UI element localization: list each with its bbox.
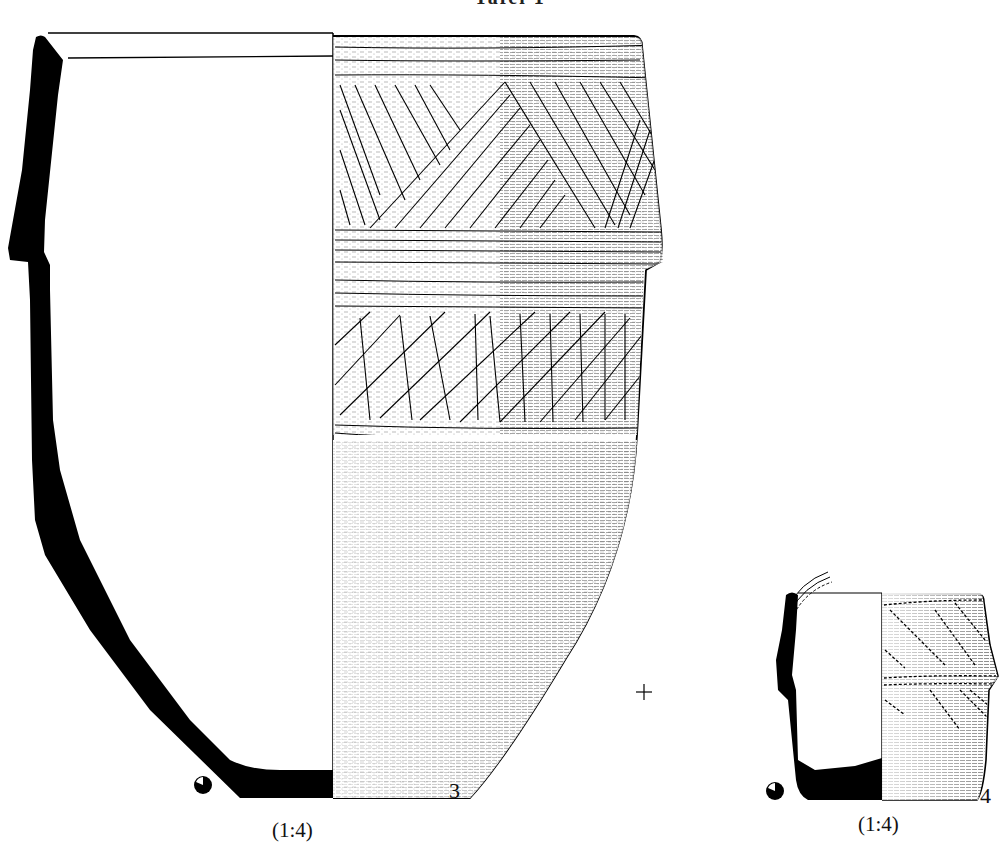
vessel-3-section-profile <box>8 36 333 799</box>
pottery-plate: Tafel 1 <box>0 0 1004 857</box>
vessel-3 <box>8 33 663 800</box>
vessel-3-number: 3 <box>449 778 460 804</box>
plate-drawing <box>0 0 1004 857</box>
vessel-4 <box>776 572 1002 803</box>
vessel-4-number: 4 <box>980 783 991 809</box>
registration-cross <box>636 684 652 700</box>
orientation-symbol-3 <box>194 776 212 794</box>
vessel-4-section-profile <box>776 593 882 801</box>
orientation-symbol-4 <box>766 782 784 800</box>
vessel-4-scale: (1:4) <box>858 812 899 837</box>
vessel-3-scale: (1:4) <box>272 818 313 843</box>
